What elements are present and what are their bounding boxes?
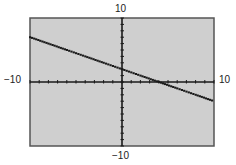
calculator-graph-screen (0, 0, 236, 165)
